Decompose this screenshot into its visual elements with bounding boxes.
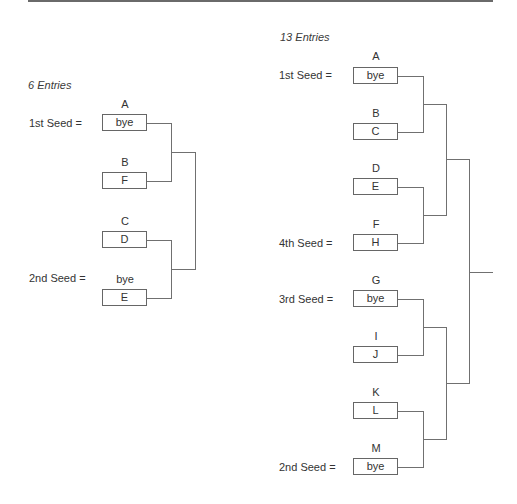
slot-above-label: C: [102, 215, 148, 227]
connector-line: [423, 104, 446, 105]
connector-line: [398, 243, 423, 244]
entry-box: C: [353, 123, 398, 140]
entry-box: bye: [102, 114, 147, 131]
entry-box: D: [102, 231, 147, 248]
slot-above-label: A: [102, 98, 148, 110]
seed-label: 2nd Seed =: [29, 272, 86, 284]
top-rule: [28, 0, 493, 2]
connector-line: [446, 383, 469, 384]
entry-box: E: [353, 178, 398, 195]
slot-above-label: D: [353, 162, 399, 174]
connector-line: [398, 76, 423, 77]
connector-line: [171, 269, 195, 270]
entry-box: bye: [353, 458, 398, 475]
entry-box: bye: [353, 67, 398, 84]
connector-line: [398, 355, 423, 356]
connector-line: [423, 327, 446, 328]
connector-line: [398, 187, 423, 188]
entry-box: F: [102, 172, 147, 189]
entry-box: J: [353, 346, 398, 363]
slot-above-label: bye: [102, 273, 148, 285]
entry-box: bye: [353, 290, 398, 307]
final-output-line: [469, 272, 493, 273]
connector-line: [147, 298, 171, 299]
connector-line: [398, 299, 423, 300]
seed-label: 3rd Seed =: [279, 293, 333, 305]
connector-line: [446, 159, 469, 160]
entry-box: L: [353, 402, 398, 419]
connector-line: [195, 152, 196, 270]
bracket-title: 6 Entries: [28, 79, 71, 91]
connector-line: [147, 181, 171, 182]
slot-above-label: I: [353, 330, 399, 342]
seed-label: 1st Seed =: [279, 69, 332, 81]
seed-label: 4th Seed =: [279, 237, 333, 249]
connector-line: [423, 439, 446, 440]
connector-line: [147, 123, 171, 124]
slot-above-label: F: [353, 218, 399, 230]
entry-box: H: [353, 234, 398, 251]
slot-above-label: K: [353, 386, 399, 398]
entry-box: E: [102, 289, 147, 306]
seed-label: 1st Seed =: [29, 117, 82, 129]
bracket-title: 13 Entries: [280, 31, 330, 43]
connector-line: [446, 104, 447, 216]
seed-label: 2nd Seed =: [279, 461, 336, 473]
connector-line: [398, 467, 423, 468]
connector-line: [398, 132, 423, 133]
connector-line: [398, 411, 423, 412]
slot-above-label: G: [353, 274, 399, 286]
slot-above-label: B: [102, 156, 148, 168]
connector-line: [147, 240, 171, 241]
slot-above-label: A: [353, 50, 399, 62]
slot-above-label: B: [353, 107, 399, 119]
slot-above-label: M: [353, 442, 399, 454]
connector-line: [171, 152, 195, 153]
connector-line: [423, 215, 446, 216]
